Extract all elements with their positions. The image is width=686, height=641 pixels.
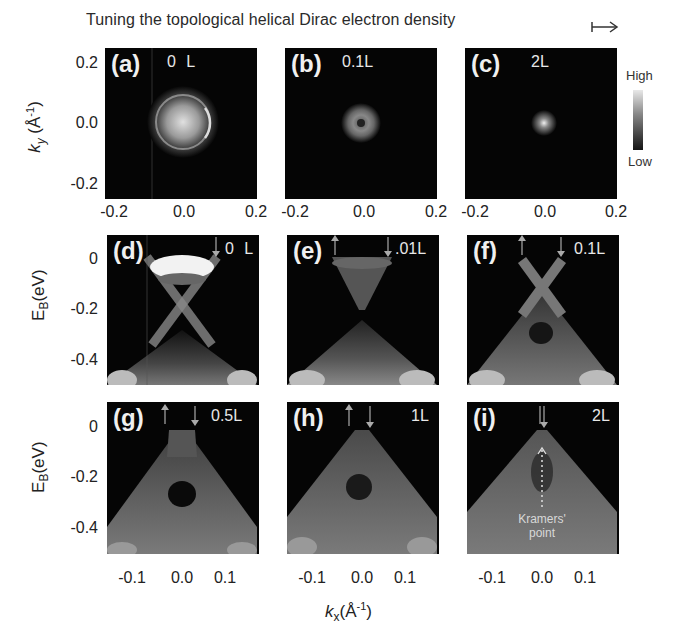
panel-a: (a) 0 L — [105, 48, 257, 199]
figure-title: Tuning the topological helical Dirac ele… — [86, 11, 455, 29]
kramers-label-line1: Kramers' — [512, 512, 572, 526]
xtick: 0.0 — [522, 569, 562, 587]
ytick: -0.2 — [48, 175, 98, 193]
coverage-label: 2L — [531, 53, 549, 71]
ytick: 0.2 — [48, 54, 98, 72]
panel-label: (c) — [471, 50, 500, 78]
xtick: 0.1 — [565, 569, 605, 587]
xtick: 0.0 — [344, 203, 384, 221]
coverage-label: 0 L — [225, 240, 256, 258]
kramers-point-annotation: Kramers' point — [512, 512, 572, 540]
xtick: -0.1 — [112, 569, 152, 587]
long-right-arrow-icon — [591, 20, 619, 34]
kx-axis-label: kx(Å-1) — [325, 600, 372, 624]
panel-label: (e) — [293, 237, 322, 265]
colorbar-low-label: Low — [628, 154, 652, 169]
ytick: -0.2 — [48, 468, 98, 486]
xtick: 0.1 — [385, 569, 425, 587]
coverage-label: 0 L — [167, 53, 198, 71]
panel-i: (i) 2L Kramers' point — [467, 402, 619, 554]
panel-label: (d) — [113, 237, 144, 265]
panel-d: (d) 0 L — [107, 235, 259, 385]
xtick: -0.2 — [94, 203, 134, 221]
xtick: 0.0 — [162, 569, 202, 587]
panel-g: (g) 0.5L — [107, 402, 259, 554]
coverage-label: 1L — [411, 407, 429, 425]
panel-label: (a) — [111, 50, 140, 78]
xtick: 0.2 — [236, 203, 276, 221]
ytick: -0.4 — [48, 351, 98, 369]
coverage-label: .01L — [395, 240, 426, 258]
xtick: -0.2 — [275, 203, 315, 221]
panel-b: (b) 0.1L — [285, 48, 437, 199]
panel-h: (h) 1L — [287, 402, 439, 554]
ytick: 0 — [48, 418, 98, 436]
xtick: 0.2 — [416, 203, 456, 221]
ytick: 0.0 — [48, 114, 98, 132]
panel-label: (f) — [473, 237, 497, 265]
coverage-label: 0.5L — [211, 407, 242, 425]
panel-e: (e) .01L — [287, 235, 439, 385]
ytick: -0.2 — [48, 300, 98, 318]
coverage-label: 2L — [592, 407, 610, 425]
panel-label: (h) — [293, 404, 324, 432]
xtick: 0.2 — [596, 203, 636, 221]
panel-c: (c) 2L — [465, 48, 617, 199]
coverage-label: 0.1L — [574, 240, 605, 258]
panel-label: (i) — [473, 404, 496, 432]
kramers-label-line2: point — [512, 526, 572, 540]
xtick: 0.0 — [342, 569, 382, 587]
coverage-label: 0.1L — [342, 53, 373, 71]
xtick: 0.0 — [525, 203, 565, 221]
xtick: 0.0 — [164, 203, 204, 221]
colorbar-high-label: High — [626, 68, 653, 83]
xtick: -0.2 — [455, 203, 495, 221]
panel-label: (b) — [291, 50, 322, 78]
ytick: -0.4 — [48, 519, 98, 537]
panel-f: (f) 0.1L — [467, 235, 619, 385]
xtick: 0.1 — [205, 569, 245, 587]
ytick: 0 — [48, 250, 98, 268]
colorbar — [633, 90, 643, 150]
xtick: -0.1 — [472, 569, 512, 587]
panel-label: (g) — [113, 404, 144, 432]
xtick: -0.1 — [292, 569, 332, 587]
ky-axis-label: ky (Å-1) — [24, 101, 48, 153]
